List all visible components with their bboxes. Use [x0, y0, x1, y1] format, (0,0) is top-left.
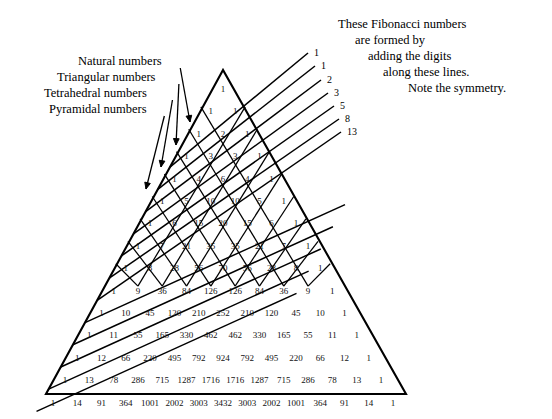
pascal-number-cell: 56: [243, 263, 253, 273]
note-line: along these lines.: [383, 65, 469, 79]
pascal-number-cell: 364: [119, 398, 133, 408]
pascal-number-cell: 252: [216, 308, 230, 318]
pascal-number-cell: 84: [255, 286, 265, 296]
pascal-number-cell: 462: [228, 330, 242, 340]
pascal-number-cell: 1001: [141, 398, 159, 408]
pascal-number-cell: 10: [231, 196, 241, 206]
pascal-number-cell: 792: [192, 353, 206, 363]
fibonacci-sum-label: 3: [334, 87, 339, 98]
fibonacci-sum-label: 1: [321, 60, 326, 71]
pascal-number-cell: 1: [233, 106, 238, 116]
annotation-labels: Natural numbersTriangular numbersTetrahe…: [44, 54, 162, 116]
pascal-number-cell: 7: [160, 241, 165, 251]
annotation-label: Natural numbers: [78, 54, 162, 68]
pascal-number-cell: 210: [192, 308, 206, 318]
pascal-number-cell: 495: [265, 353, 279, 363]
annotation-label: Tetrahedral numbers: [44, 86, 147, 100]
pascal-number-cell: 3003: [190, 398, 209, 408]
pascal-number-cell: 924: [216, 353, 230, 363]
pascal-number-cell: 4: [245, 174, 250, 184]
annotation-arrow-head: [186, 115, 192, 122]
note-line: adding the digits: [368, 49, 451, 63]
pascal-number-cell: 10: [206, 196, 216, 206]
pascal-number-cell: 715: [156, 375, 170, 385]
pascal-number-cell: 21: [255, 241, 264, 251]
pascal-number-cell: 120: [265, 308, 279, 318]
pascal-number-cell: 70: [219, 263, 229, 273]
pascal-number-cell: 9: [306, 286, 311, 296]
pascal-number-cell: 1: [111, 286, 116, 296]
pascal-number-cell: 3432: [214, 398, 232, 408]
pascal-number-cell: 13: [85, 375, 95, 385]
pascal-number-cell: 1: [306, 241, 311, 251]
fibonacci-sum-label: 2: [327, 74, 332, 85]
fibonacci-sum-label: 5: [340, 100, 345, 111]
pascal-numbers-layer: 1111211331146411510105116152015611721353…: [51, 84, 396, 408]
pascal-number-cell: 14: [73, 398, 83, 408]
pascal-number-cell: 3: [233, 151, 238, 161]
pascal-number-cell: 1: [184, 151, 189, 161]
pascal-number-cell: 220: [289, 353, 303, 363]
pascal-number-cell: 1: [269, 174, 274, 184]
pascal-number-cell: 1: [391, 398, 396, 408]
pascal-number-cell: 364: [313, 398, 327, 408]
pascal-number-cell: 1716: [202, 375, 221, 385]
pascal-number-cell: 13: [352, 375, 362, 385]
pascal-number-cell: 462: [204, 330, 218, 340]
pascal-number-cell: 1: [379, 375, 384, 385]
pascal-number-cell: 55: [133, 330, 143, 340]
annotation-arrow-shaft: [180, 68, 190, 122]
pascal-number-cell: 6: [172, 218, 177, 228]
pascal-number-cell: 36: [279, 286, 289, 296]
annotation-label: Triangular numbers: [57, 70, 156, 84]
pascal-number-cell: 165: [156, 330, 170, 340]
pascal-number-cell: 715: [277, 375, 291, 385]
pascal-number-cell: 11: [109, 330, 118, 340]
pascal-number-cell: 1: [148, 218, 153, 228]
pascal-number-cell: 20: [219, 218, 229, 228]
pascal-number-cell: 1: [354, 330, 359, 340]
pascal-number-cell: 1716: [226, 375, 245, 385]
pascal-number-cell: 15: [243, 218, 253, 228]
pascal-number-cell: 35: [231, 241, 241, 251]
pascal-number-cell: 495: [168, 353, 182, 363]
pascal-number-cell: 28: [267, 263, 277, 273]
pascal-number-cell: 1: [160, 196, 165, 206]
explanatory-note: These Fibonacci numbersare formed byaddi…: [338, 17, 506, 95]
pascal-number-cell: 330: [180, 330, 194, 340]
annotation-arrow-head: [159, 160, 165, 167]
pascal-number-cell: 8: [148, 263, 153, 273]
pascal-number-cell: 1: [124, 263, 129, 273]
pascal-number-cell: 1: [209, 106, 214, 116]
pascal-number-cell: 6: [221, 174, 226, 184]
pascal-number-cell: 11: [328, 330, 337, 340]
fibonacci-sum-label: 8: [345, 113, 350, 124]
pascal-number-cell: 1: [221, 84, 226, 94]
pascal-number-cell: 45: [146, 308, 156, 318]
pascal-number-cell: 7: [282, 241, 287, 251]
pascal-number-cell: 28: [170, 263, 180, 273]
pascal-number-cell: 1: [172, 174, 177, 184]
pascal-number-cell: 1: [367, 353, 372, 363]
pascal-number-cell: 2002: [263, 398, 281, 408]
pascal-number-cell: 286: [301, 375, 315, 385]
annotation-arrow-head: [173, 138, 179, 145]
note-line: These Fibonacci numbers: [338, 17, 467, 31]
pascal-number-cell: 91: [340, 398, 349, 408]
annotation-arrow-shaft: [161, 100, 172, 167]
pascal-number-cell: 120: [168, 308, 182, 318]
pascal-number-cell: 78: [109, 375, 119, 385]
pascal-number-cell: 56: [194, 263, 204, 273]
pascal-number-cell: 1: [136, 241, 141, 251]
pascal-number-cell: 165: [277, 330, 291, 340]
fibonacci-sum-label: 13: [347, 126, 357, 137]
pascal-number-cell: 5: [184, 196, 189, 206]
annotation-arrow-shaft: [176, 84, 179, 145]
pascal-number-cell: 10: [121, 308, 131, 318]
pascal-number-cell: 84: [182, 286, 192, 296]
pascal-number-cell: 1: [87, 330, 92, 340]
pascal-number-cell: 14: [364, 398, 374, 408]
pascal-number-cell: 4: [196, 174, 201, 184]
pascal-number-cell: 1: [342, 308, 347, 318]
pascal-number-cell: 8: [294, 263, 299, 273]
